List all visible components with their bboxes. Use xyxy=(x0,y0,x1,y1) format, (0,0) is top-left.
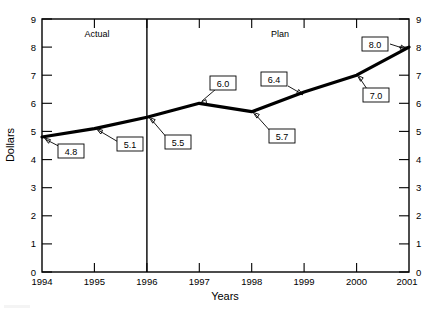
y-tick-label-right: 8 xyxy=(416,42,421,53)
region-label-actual: Actual xyxy=(84,29,109,39)
chart-container: 9 8 7 6 5 4 3 2 1 0 9 8 7 6 5 4 3 2 1 0 … xyxy=(0,0,443,316)
callout-label: 5.1 xyxy=(124,140,137,150)
y-axis-left-labels: 9 8 7 6 5 4 3 2 1 0 xyxy=(31,14,36,278)
callout-label: 6.4 xyxy=(268,75,281,85)
scan-artifact xyxy=(4,305,30,308)
x-tick-label: 1998 xyxy=(241,276,262,287)
data-series-line xyxy=(42,47,409,137)
y-tick-label-right: 7 xyxy=(416,70,421,81)
callout-1994: 4.8 xyxy=(45,138,85,158)
y-tick-label-left: 2 xyxy=(31,210,36,221)
callout-label: 5.7 xyxy=(276,132,289,142)
x-tick-label: 1999 xyxy=(294,276,315,287)
plot-frame xyxy=(42,19,409,272)
y-tick-label-right: 3 xyxy=(416,182,421,193)
x-axis-labels: 1994 1995 1996 1997 1998 1999 2000 2001 xyxy=(31,276,417,287)
callout-1997: 6.0 xyxy=(200,76,236,104)
y-axis-right-labels: 9 8 7 6 5 4 3 2 1 0 xyxy=(416,14,421,278)
y-tick-label-left: 3 xyxy=(31,182,36,193)
callout-label: 4.8 xyxy=(65,147,78,157)
callout-2001: 8.0 xyxy=(362,37,407,51)
y-tick-label-right: 4 xyxy=(416,154,421,165)
y-tick-label-left: 4 xyxy=(31,154,36,165)
y-tick-label-left: 9 xyxy=(31,14,36,25)
x-tick-label: 1997 xyxy=(189,276,210,287)
y-tick-label-left: 5 xyxy=(31,126,36,137)
x-tick-label: 2001 xyxy=(396,276,417,287)
y-tick-label-right: 9 xyxy=(416,14,421,25)
y-axis-title: Dollars xyxy=(4,127,16,162)
y-tick-label-right: 6 xyxy=(416,98,421,109)
region-label-plan: Plan xyxy=(271,29,289,39)
y-tick-label-right: 1 xyxy=(416,238,421,249)
y-tick-label-left: 6 xyxy=(31,98,36,109)
y-tick-label-right: 2 xyxy=(416,210,421,221)
callout-label: 7.0 xyxy=(370,91,383,101)
x-tick-label: 1994 xyxy=(31,276,52,287)
y-tick-label-left: 1 xyxy=(31,238,36,249)
callout-label: 5.5 xyxy=(172,138,185,148)
callout-label: 8.0 xyxy=(369,40,382,50)
x-tick-label: 1995 xyxy=(84,276,105,287)
x-axis-title: Years xyxy=(211,290,239,302)
y-axis-right-ticks xyxy=(399,19,409,272)
x-axis-top-ticks xyxy=(94,19,356,28)
line-chart: 9 8 7 6 5 4 3 2 1 0 9 8 7 6 5 4 3 2 1 0 … xyxy=(0,0,443,316)
x-tick-label: 1996 xyxy=(136,276,157,287)
x-axis-bottom-ticks xyxy=(94,263,356,272)
callout-2000: 7.0 xyxy=(357,75,389,102)
y-tick-label-left: 8 xyxy=(31,42,36,53)
x-tick-label: 2000 xyxy=(346,276,367,287)
callout-label: 6.0 xyxy=(217,79,230,89)
callout-1998: 5.7 xyxy=(253,112,295,143)
y-tick-label-left: 7 xyxy=(31,70,36,81)
y-tick-label-right: 5 xyxy=(416,126,421,137)
callout-1999: 6.4 xyxy=(261,72,303,95)
y-axis-left-ticks xyxy=(42,19,52,272)
callout-1996: 5.5 xyxy=(149,118,191,150)
callout-1995: 5.1 xyxy=(97,129,144,151)
